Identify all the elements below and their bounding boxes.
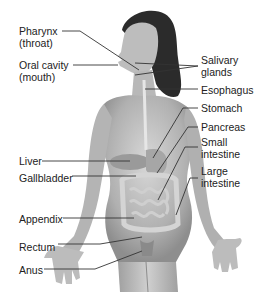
label-small-line1: Small <box>201 136 240 148</box>
label-large-line1: Large <box>201 165 240 177</box>
label-oral-cavity: Oral cavity (mouth) <box>19 59 69 83</box>
label-anus: Anus <box>19 264 43 276</box>
label-esophagus: Esophagus <box>201 84 254 96</box>
esophagus-organ <box>144 80 146 150</box>
label-pharynx-line1: Pharynx <box>19 25 58 37</box>
label-pharynx-line2: (throat) <box>19 37 58 49</box>
label-pancreas: Pancreas <box>201 121 245 133</box>
label-oral-cavity-line2: (mouth) <box>19 71 69 83</box>
liver-organ <box>110 154 150 170</box>
label-small-intestine: Small intestine <box>201 136 240 160</box>
digestive-system-diagram: Pharynx (throat) Oral cavity (mouth) Liv… <box>0 0 266 297</box>
label-appendix: Appendix <box>19 213 63 225</box>
label-rectum: Rectum <box>19 241 55 253</box>
label-stomach: Stomach <box>201 102 242 114</box>
left-arm <box>55 104 112 266</box>
label-large-line2: intestine <box>201 177 240 189</box>
label-salivary-glands: Salivary glands <box>201 54 238 78</box>
label-small-line2: intestine <box>201 148 240 160</box>
label-gallbladder: Gallbladder <box>19 172 73 184</box>
label-salivary-line1: Salivary <box>201 54 238 66</box>
label-liver: Liver <box>19 155 42 167</box>
label-pharynx: Pharynx (throat) <box>19 25 58 49</box>
label-oral-cavity-line1: Oral cavity <box>19 59 69 71</box>
label-large-intestine: Large intestine <box>201 165 240 189</box>
torso <box>100 95 194 262</box>
label-salivary-line2: glands <box>201 66 238 78</box>
